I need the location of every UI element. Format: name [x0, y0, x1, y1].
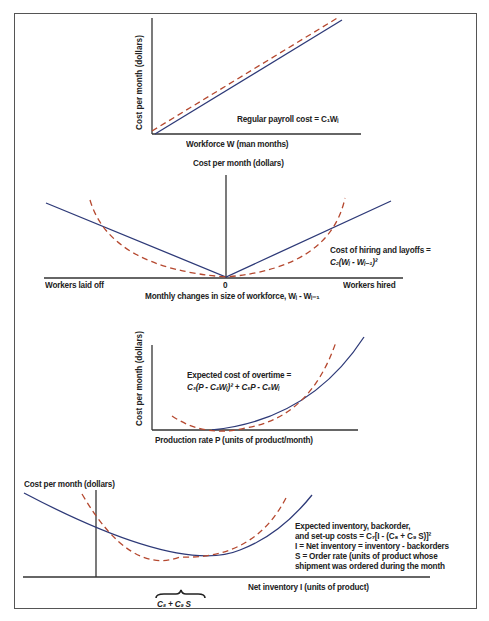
cost-curves-diagram — [0, 0, 489, 621]
panel2-xlabel: Monthly changes in size of workforce, Wᵢ… — [145, 290, 319, 301]
panel4-annotation-5: shipment was ordered during the month — [295, 560, 445, 571]
panel2-annotation-1: Cost of hiring and layoffs = — [330, 244, 431, 255]
panel1-annotation: Regular payroll cost = C₁Wᵢ — [237, 113, 338, 124]
panel3-xlabel: Production rate P (units of product/mont… — [155, 434, 313, 445]
panel4-brace-label: C₈ + C₉ S — [157, 598, 191, 609]
panel2-ylabel: Cost per month (dollars) — [193, 157, 284, 168]
panel2-annotation-2: C₂(Wᵢ - Wᵢ₋₁)² — [330, 256, 377, 267]
solid-curve — [24, 493, 312, 556]
panel1-xlabel: Workforce W (man months) — [186, 138, 288, 149]
panel3-ylabel: Cost per month (dollars) — [133, 331, 144, 426]
dashed-curve — [82, 494, 287, 561]
panel2-right-label: Workers hired — [343, 279, 396, 290]
brace — [156, 590, 205, 598]
panel3-annotation-2: C₃(P - C₄Wᵢ)² + C₅P - C₆Wᵢ — [187, 381, 280, 392]
panel2-left-label: Workers laid off — [45, 279, 104, 290]
panel2-center-tick: 0 — [223, 279, 227, 290]
panel4-ylabel: Cost per month (dollars) — [24, 478, 115, 489]
panel3-annotation-1: Expected cost of overtime = — [187, 369, 291, 380]
panel4-xlabel: Net inventory I (units of product) — [248, 581, 369, 592]
panel1-ylabel: Cost per month (dollars) — [133, 35, 144, 130]
